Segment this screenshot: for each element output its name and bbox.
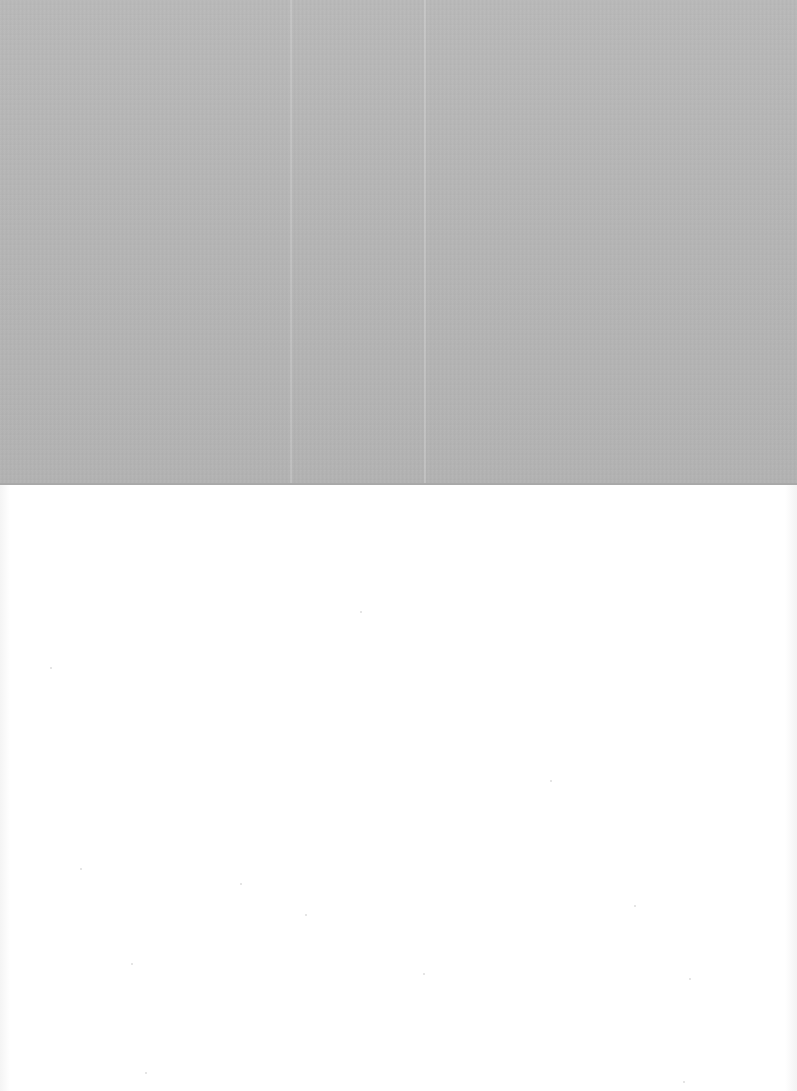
dust-speck [131,963,133,965]
blank-paper-region [0,485,797,1091]
dust-speck [683,1081,685,1083]
dust-speck [305,914,307,916]
plate-seam-left [290,0,292,485]
dust-speck [80,868,82,870]
dust-speck [145,1072,147,1074]
dust-speck [360,611,362,613]
dust-speck [240,883,242,885]
dust-speck [50,667,52,669]
dust-speck [550,780,552,782]
dust-speck [689,978,691,980]
scanned-page [0,0,797,1091]
plate-seam-right [424,0,426,485]
dust-speck [423,973,425,975]
dust-speck [634,905,636,907]
gray-plate-region [0,0,797,485]
